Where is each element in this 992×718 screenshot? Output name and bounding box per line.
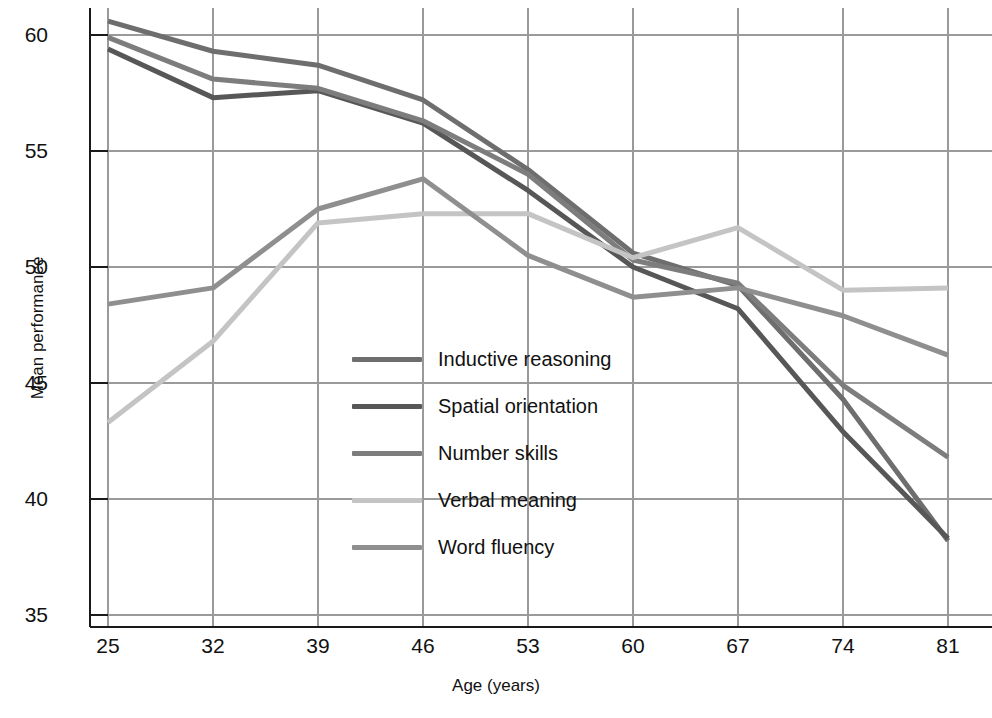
x-tick-label-67: 67: [726, 634, 749, 658]
x-axis-title: Age (years): [0, 676, 992, 696]
legend-item-label: Word fluency: [438, 536, 554, 559]
y-tick-label-55: 55: [25, 139, 48, 163]
legend-item-label: Number skills: [438, 442, 558, 465]
legend-item-inductive-reasoning: Inductive reasoning: [352, 336, 662, 383]
legend-item-label: Inductive reasoning: [438, 348, 611, 371]
legend-swatch-icon: [352, 545, 422, 550]
y-tick-label-40: 40: [25, 487, 48, 511]
x-tick-label-39: 39: [306, 634, 329, 658]
x-tick-label-53: 53: [516, 634, 539, 658]
legend-swatch-icon: [352, 404, 422, 409]
legend-item-label: Spatial orientation: [438, 395, 598, 418]
line-chart: 253239465360677481 354045505560 Mean per…: [0, 0, 992, 718]
legend-item-verbal-meaning: Verbal meaning: [352, 477, 662, 524]
x-tick-label-60: 60: [621, 634, 644, 658]
legend-swatch-icon: [352, 357, 422, 362]
legend-item-spatial-orientation: Spatial orientation: [352, 383, 662, 430]
chart-legend: Inductive reasoningSpatial orientationNu…: [352, 336, 662, 571]
legend-item-label: Verbal meaning: [438, 489, 577, 512]
x-tick-label-25: 25: [96, 634, 119, 658]
x-tick-label-32: 32: [201, 634, 224, 658]
x-tick-label-46: 46: [411, 634, 434, 658]
legend-swatch-icon: [352, 451, 422, 456]
x-tick-label-74: 74: [831, 634, 854, 658]
x-tick-label-81: 81: [936, 634, 959, 658]
y-tick-label-60: 60: [25, 23, 48, 47]
legend-item-word-fluency: Word fluency: [352, 524, 662, 571]
legend-item-number-skills: Number skills: [352, 430, 662, 477]
y-axis-title: Mean performance: [28, 198, 48, 458]
y-tick-label-35: 35: [25, 603, 48, 627]
legend-swatch-icon: [352, 498, 422, 503]
